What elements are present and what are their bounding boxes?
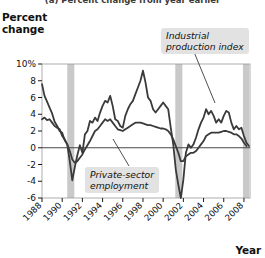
y-tick-label: 6 xyxy=(30,93,36,103)
x-tick-label: 2008 xyxy=(223,200,246,223)
x-tick-label: 1988 xyxy=(21,200,44,223)
annotation-emp-line2: employment xyxy=(90,180,154,191)
annotation-industrial-production: Industrial production index xyxy=(161,28,249,54)
x-tick-label: 2006 xyxy=(203,200,226,223)
annotation-private-sector-employment: Private-sector employment xyxy=(85,167,159,193)
y-tick-label: 10% xyxy=(16,59,36,69)
annotation-emp-line1: Private-sector xyxy=(90,169,154,180)
x-tick-label: 1994 xyxy=(81,200,104,223)
y-tick-label: 8 xyxy=(30,76,36,86)
x-axis-title: Year xyxy=(235,245,261,257)
x-tick-label: 2000 xyxy=(142,200,165,223)
recession-band xyxy=(243,64,249,198)
x-tick-label: 1992 xyxy=(61,200,84,223)
y-tick-label: 4 xyxy=(30,109,36,119)
y-tick-label: 2 xyxy=(30,126,36,136)
leader-line-ip xyxy=(194,52,215,103)
leader-line-emp xyxy=(113,139,129,166)
x-tick-label: 1996 xyxy=(102,200,125,223)
x-tick-label: 2004 xyxy=(182,200,205,223)
x-tick-label: 2002 xyxy=(162,200,185,223)
annotation-ip-line2: production index xyxy=(166,41,244,52)
annotation-ip-line1: Industrial xyxy=(166,30,244,41)
x-tick-label: 1990 xyxy=(41,200,64,223)
x-tick-label: 1998 xyxy=(122,200,145,223)
y-tick-label: -2 xyxy=(27,160,36,170)
chart-figure: (a) Percent change from year earlier Per… xyxy=(0,0,265,258)
y-tick-label: 0 xyxy=(30,143,36,153)
y-tick-label: -4 xyxy=(27,176,36,186)
